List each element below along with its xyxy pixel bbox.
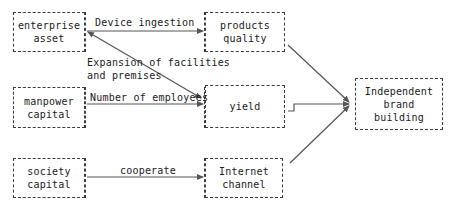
edge-label-expansion-of-facilities: Expansion of facilities and premises: [87, 56, 230, 82]
edge-label-number-of-employees: Number of employees: [90, 91, 208, 104]
node-yield-label: yield: [229, 100, 260, 113]
connector-internet-to-brand: [290, 106, 349, 163]
edge-label-cooperate: cooperate: [120, 164, 176, 177]
connector-yield-to-brand: [288, 104, 349, 111]
node-internet-channel[interactable]: Internet channel: [205, 158, 283, 198]
node-enterprise-asset[interactable]: enterprise asset: [13, 12, 85, 52]
node-yield[interactable]: yield: [205, 85, 285, 128]
edge-label-device-ingestion: Device ingestion: [95, 16, 195, 29]
node-manpower-capital-label: manpower capital: [24, 95, 74, 121]
node-society-capital[interactable]: society capital: [13, 158, 85, 198]
node-independent-brand-building[interactable]: Independent brand building: [355, 78, 443, 130]
node-independent-brand-building-label: Independent brand building: [365, 85, 433, 124]
diagram-canvas: enterprise asset products quality manpow…: [0, 0, 453, 211]
node-products-quality-label: products quality: [220, 19, 270, 45]
connector-products-to-brand: [288, 45, 349, 102]
node-manpower-capital[interactable]: manpower capital: [13, 87, 85, 128]
node-society-capital-label: society capital: [27, 165, 71, 191]
node-internet-channel-label: Internet channel: [219, 165, 269, 191]
node-products-quality[interactable]: products quality: [205, 12, 285, 52]
node-enterprise-asset-label: enterprise asset: [18, 19, 80, 45]
